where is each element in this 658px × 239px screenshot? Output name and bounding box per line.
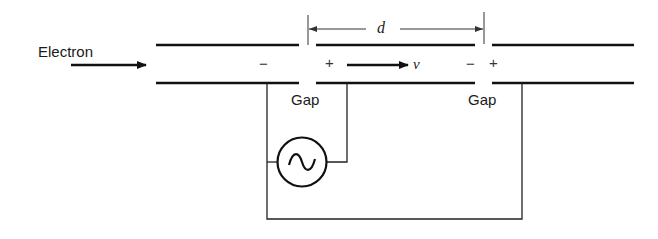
gap1-negative-sign: − [259, 55, 268, 72]
diagram-svg [0, 0, 658, 239]
ac-source-icon [278, 138, 327, 187]
dimension-d-marker [308, 12, 484, 45]
gap2-negative-sign: − [466, 55, 475, 72]
gap-label-left: Gap [291, 91, 319, 108]
diagram-canvas: Electron d v Gap Gap − + − + [0, 0, 658, 239]
drift-tube-segment-3 [492, 45, 634, 83]
gap2-positive-sign: + [489, 54, 498, 71]
gap1-positive-sign: + [325, 54, 334, 71]
gap-label-right: Gap [468, 91, 496, 108]
drift-tube-segment-1 [156, 45, 299, 83]
distance-label: d [377, 19, 385, 37]
velocity-label: v [413, 56, 420, 73]
electron-label: Electron [38, 43, 93, 60]
